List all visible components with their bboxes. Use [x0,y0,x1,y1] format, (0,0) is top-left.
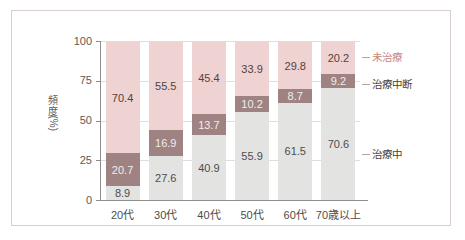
bar-segment-40代-interrupted[interactable]: 13.7 [192,114,226,136]
x-category-label-70歳以上: 70歳以上 [311,206,366,222]
bar-segment-20代-interrupted[interactable]: 20.7 [106,153,140,186]
bar-value-label: 70.4 [112,92,133,104]
bar-70歳以上[interactable]: 70.69.220.2 [321,42,355,200]
y-tick-label-75: 75 [62,75,92,86]
bar-value-label: 70.6 [328,138,349,150]
bar-segment-60代-treating[interactable]: 61.5 [278,103,312,200]
y-axis-tick-labels: 100 75 50 25 0 [60,11,92,227]
bar-segment-50代-treating[interactable]: 55.9 [235,112,269,200]
bar-segment-20代-treating[interactable]: 8.9 [106,186,140,200]
legend-label-interrupted[interactable]: 治療中断 [372,78,412,90]
bar-value-label: 20.7 [112,164,133,176]
bar-value-label: 55.9 [241,150,262,162]
bar-segment-40代-treating[interactable]: 40.9 [192,135,226,200]
bar-30代[interactable]: 27.616.955.5 [149,42,183,200]
bar-segment-50代-interrupted[interactable]: 10.2 [235,96,269,112]
y-tick-label-25: 25 [62,155,92,166]
y-axis-title: 頻 度 (%) [46,95,60,128]
y-tick-label-100: 100 [62,36,92,47]
bar-segment-70歳以上-treating[interactable]: 70.6 [321,88,355,200]
legend-label-untreated[interactable]: 未治療 [372,51,402,63]
bar-60代[interactable]: 61.58.729.8 [278,42,312,200]
bar-value-label: 10.2 [241,98,262,110]
bar-segment-60代-interrupted[interactable]: 8.7 [278,89,312,103]
bar-40代[interactable]: 40.913.745.4 [192,42,226,200]
y-tick-label-0: 0 [62,195,92,206]
bar-segment-60代-untreated[interactable]: 29.8 [278,42,312,89]
bar-value-label: 33.9 [241,63,262,75]
bar-value-label: 20.2 [328,52,349,64]
bar-value-label: 8.7 [288,90,303,102]
y-tick-mark-0 [96,200,101,201]
y-tick-label-50: 50 [62,115,92,126]
bar-value-label: 45.4 [198,72,219,84]
legend-connector-treating [362,154,370,155]
bar-20代[interactable]: 8.920.770.4 [106,42,140,200]
bar-value-label: 27.6 [155,172,176,184]
bar-value-label: 61.5 [285,145,306,157]
bar-value-label: 8.9 [115,187,130,199]
bar-50代[interactable]: 55.910.233.9 [235,42,269,200]
bar-segment-50代-untreated[interactable]: 33.9 [235,42,269,96]
y-axis-title-char-3: (%) [48,116,59,130]
bar-segment-70歳以上-interrupted[interactable]: 9.2 [321,74,355,89]
bar-value-label: 16.9 [155,137,176,149]
bar-value-label: 29.8 [285,60,306,72]
bar-segment-30代-untreated[interactable]: 55.5 [149,42,183,130]
legend-connector-interrupted [362,84,370,85]
bar-value-label: 9.2 [331,75,346,87]
plot-area: 8.920.770.427.616.955.540.913.745.455.91… [101,42,360,200]
bar-value-label: 13.7 [198,119,219,131]
y-axis-title-char-1: 頻 [46,95,60,106]
legend-label-treating[interactable]: 治療中 [372,148,402,160]
bar-segment-40代-untreated[interactable]: 45.4 [192,42,226,114]
bar-segment-70歳以上-untreated[interactable]: 20.2 [321,42,355,74]
bar-segment-20代-untreated[interactable]: 70.4 [106,42,140,153]
x-axis-line [100,200,368,201]
legend-connector-untreated [362,57,370,58]
bar-value-label: 55.5 [155,80,176,92]
bar-segment-30代-interrupted[interactable]: 16.9 [149,130,183,157]
bar-value-label: 40.9 [198,162,219,174]
bar-segment-30代-treating[interactable]: 27.6 [149,156,183,200]
chart-frame: 頻 度 (%) 100 75 50 25 0 8.920.770.427.616… [11,10,451,226]
